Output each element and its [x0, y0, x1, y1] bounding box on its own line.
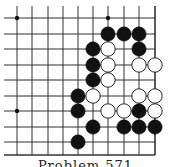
white-stone: [101, 73, 115, 87]
black-stone: [86, 120, 100, 134]
white-stone: [132, 89, 146, 103]
white-stone: [101, 58, 115, 72]
black-stone: [117, 27, 131, 41]
diagram-caption: Problem 571: [0, 158, 171, 167]
black-stone: [132, 104, 146, 118]
black-stone: [71, 104, 85, 118]
star-point: [106, 16, 110, 20]
black-stone: [71, 89, 85, 103]
white-stone: [132, 58, 146, 72]
star-point: [15, 16, 19, 20]
white-stone: [101, 42, 115, 56]
black-stone: [117, 120, 131, 134]
white-stone: [148, 104, 162, 118]
black-stone: [132, 27, 146, 41]
black-stone: [71, 135, 85, 149]
black-stone: [86, 58, 100, 72]
go-board: [0, 0, 171, 167]
white-stone: [101, 104, 115, 118]
black-stone: [86, 42, 100, 56]
star-point: [15, 109, 19, 113]
black-stone: [148, 120, 162, 134]
white-stone: [148, 58, 162, 72]
white-stone: [148, 89, 162, 103]
black-stone: [132, 120, 146, 134]
black-stone: [132, 42, 146, 56]
black-stone: [101, 27, 115, 41]
white-stone: [86, 89, 100, 103]
black-stone: [86, 73, 100, 87]
white-stone: [117, 104, 131, 118]
